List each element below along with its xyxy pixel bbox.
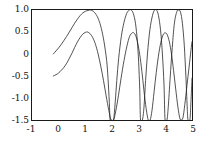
x-tick-label-3: 3: [129, 124, 149, 134]
x-tick-label-2: 2: [102, 124, 122, 134]
y-tick-label--1.0: -1.0: [0, 94, 29, 103]
y-tick-label--0.5: -0.5: [0, 72, 29, 81]
x-tick-label-0: 0: [48, 124, 68, 134]
x-tick-label-4: 4: [156, 124, 176, 134]
chart-figure: 1.0 0.5 0 -0.5 -1.0 -1.5 -1 0 1 2 3 4 5: [0, 0, 202, 159]
curve-large-amplitude: [53, 10, 192, 120]
plot-curves: [32, 10, 192, 120]
x-tick-label--1: -1: [21, 124, 41, 134]
x-tick-label-1: 1: [75, 124, 95, 134]
y-axis-labels: 1.0 0.5 0 -0.5 -1.0 -1.5: [0, 0, 29, 159]
y-tick-label-1.0: 1.0: [0, 5, 29, 14]
y-tick-label-0: 0: [0, 50, 29, 59]
y-tick-label-0.5: 0.5: [0, 27, 29, 36]
x-tick-label-5: 5: [183, 124, 202, 134]
curve-small-amplitude: [53, 32, 192, 120]
plot-area: [31, 9, 193, 121]
